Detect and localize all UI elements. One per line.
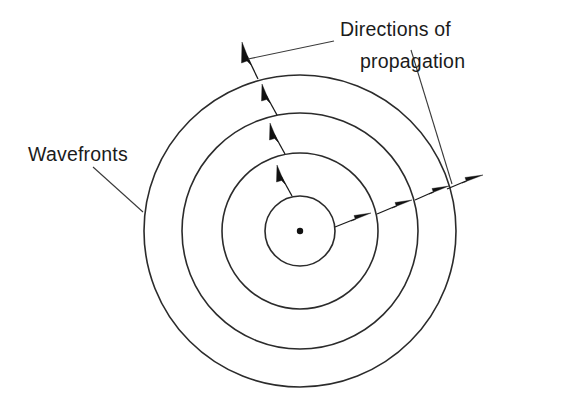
propagation-arrow-up-1	[277, 165, 293, 196]
propagation-arrow-up-3	[262, 84, 278, 115]
propagation-arrow-up-2	[270, 123, 286, 154]
propagation-arrow-up-4	[242, 42, 259, 79]
propagation-arrow-right-4	[447, 175, 483, 189]
propagation-arrow-right-3	[415, 186, 449, 200]
leader-line-wavefronts	[93, 167, 143, 212]
wavefront-diagram: Wavefronts Directions of propagation	[0, 0, 562, 413]
figure-root: Wavefronts Directions of propagation	[0, 0, 562, 413]
propagation-arrow-right-2	[377, 200, 412, 214]
propagation-arrow-right-1	[335, 213, 371, 227]
point-source-dot	[297, 228, 303, 234]
propagation-arrows-right	[335, 175, 483, 227]
label-directions-line1: Directions of	[340, 18, 451, 40]
label-wavefronts: Wavefronts	[28, 143, 128, 165]
leader-line-directions	[248, 41, 334, 59]
label-directions-line2: propagation	[360, 50, 465, 72]
